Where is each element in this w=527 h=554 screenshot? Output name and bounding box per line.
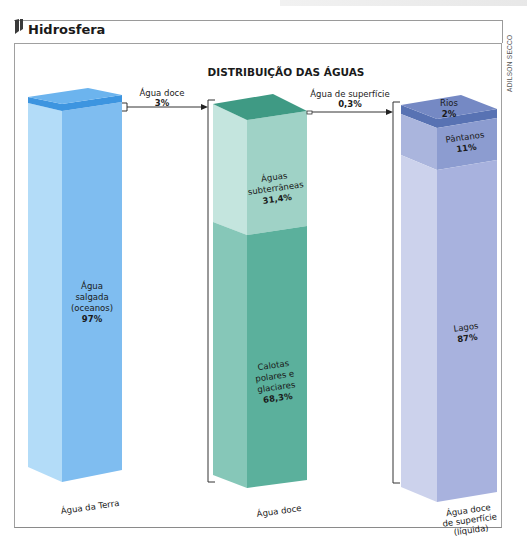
column-earth [28, 88, 122, 482]
salt-label-pct: 97% [82, 314, 103, 324]
salt-label-line-3: (oceanos) [71, 303, 113, 313]
rivers-label: Rios [440, 98, 458, 108]
column-surface [401, 95, 497, 502]
column-label-fresh: Água doce [256, 502, 302, 519]
connector-1-label: Água doce [139, 87, 184, 98]
salt-label-line-1: Água [81, 280, 103, 291]
salt-label-line-2: salgada [75, 292, 108, 302]
segment-label-rivers: Rios 2% [440, 98, 458, 119]
connector-2-pct: 0,3% [338, 99, 362, 109]
connector-1-pct: 3% [155, 98, 170, 108]
arrow-head-icon [386, 109, 393, 115]
arrow-head-icon [201, 104, 208, 110]
diagram-title: DISTRIBUIÇÃO DAS ÁGUAS [208, 66, 365, 78]
column-label-surface: Água doce de superfície (líquida) [442, 501, 498, 537]
connector-fresh-water: Água doce 3% [122, 87, 215, 482]
fresh-side-face-ice [213, 222, 247, 488]
fresh-side-face-ground [213, 104, 247, 235]
connector-2-label: Água de superfície [310, 88, 389, 99]
rivers-pct: 2% [442, 109, 457, 119]
earth-side-face [28, 103, 62, 482]
column-label-earth: Água da Terra [60, 497, 120, 516]
surface-side-face-lakes [401, 155, 437, 502]
fresh-front-face-ice [247, 226, 307, 488]
segment-label-lakes: Lagos 87% [453, 320, 480, 344]
water-distribution-diagram: DISTRIBUIÇÃO DAS ÁGUAS Água salgada (oce… [0, 0, 527, 554]
column-fresh [213, 94, 307, 488]
connector-surface-water: Água de superfície 0,3% [307, 88, 400, 483]
